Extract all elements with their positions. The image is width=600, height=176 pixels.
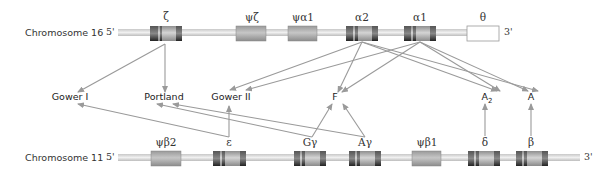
hemoglobin-portland: Portland	[144, 91, 183, 102]
arrows-group	[78, 42, 538, 137]
gene-label-epsilon: ε	[226, 136, 231, 148]
gene-label-psi-beta2: ψβ2	[156, 136, 177, 148]
arrow-alpha1-gower2	[246, 42, 420, 90]
chr11-three-prime: 3'	[584, 151, 593, 162]
gene-zeta	[150, 26, 182, 41]
arrow-alpha1-adult	[420, 42, 528, 91]
chr11-five-prime: 5'	[106, 151, 115, 162]
arrow-ggamma-portland	[157, 104, 312, 137]
hemoglobin-a2-subscript: 2	[488, 97, 492, 105]
arrow-alpha1-a2	[420, 42, 500, 91]
globin-gene-diagram: Chromosome 16 5' 3' Chromosome 11 5' 3' …	[0, 0, 600, 176]
arrow-agamma-fetal	[343, 104, 365, 137]
gene-label-psi-beta1: ψβ1	[417, 136, 438, 148]
hemoglobin-a2: A2	[482, 91, 493, 105]
gene-epsilon	[213, 151, 246, 166]
arrow-epsilon-gower1	[78, 104, 229, 137]
gene-a-gamma	[349, 151, 381, 166]
gene-alpha2	[346, 26, 378, 41]
gene-label-a-gamma: Aγ	[358, 136, 372, 148]
gene-label-alpha2: α2	[355, 11, 369, 23]
arrow-ggamma-fetal	[312, 104, 332, 137]
gene-theta	[467, 26, 499, 41]
gene-label-g-gamma: Gγ	[303, 136, 318, 148]
gene-psi-alpha1	[288, 26, 317, 41]
chromosome-11-label: Chromosome 11	[25, 152, 103, 163]
gene-psi-beta2	[151, 151, 181, 166]
hemoglobin-adult: A	[528, 91, 535, 102]
chromosome-16-label: Chromosome 16	[25, 27, 103, 38]
gene-label-psi-alpha1: ψα1	[292, 11, 314, 23]
gene-g-gamma	[294, 151, 326, 166]
gene-psi-beta1	[412, 151, 441, 166]
gene-beta	[516, 151, 548, 166]
chr16-three-prime: 3'	[504, 26, 513, 37]
gene-delta	[468, 151, 500, 166]
gene-label-psi-zeta: ψζ	[245, 11, 259, 23]
arrow-alpha1-fetal	[342, 42, 420, 92]
hemoglobin-gower2: Gower II	[211, 91, 250, 102]
arrow-zeta-gower1	[78, 44, 165, 92]
gene-label-alpha1: α1	[413, 11, 427, 23]
gene-label-beta: β	[528, 136, 534, 148]
gene-alpha1	[404, 26, 436, 41]
gene-label-theta: θ	[480, 11, 486, 23]
hemoglobin-gower1: Gower I	[52, 91, 89, 102]
gene-psi-zeta	[236, 26, 266, 41]
gene-label-zeta: ζ	[163, 10, 169, 22]
hemoglobin-fetal: F	[332, 91, 337, 102]
chr16-five-prime: 5'	[106, 26, 115, 37]
arrow-agamma-portland	[173, 104, 365, 137]
gene-label-delta: δ	[482, 136, 488, 148]
